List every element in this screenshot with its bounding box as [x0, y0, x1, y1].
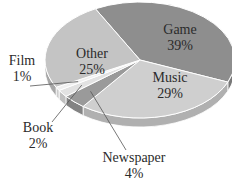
label-music-name: Music	[140, 70, 200, 86]
label-music-value: 29%	[140, 86, 200, 102]
label-newspaper: Newspaper 4%	[94, 150, 174, 182]
label-game-name: Game	[150, 22, 210, 38]
label-film: Film 1%	[4, 53, 40, 85]
label-other-name: Other	[62, 46, 122, 62]
pie-chart: Game 39% Music 29% Other 25% Film 1% Boo…	[0, 0, 232, 189]
label-film-value: 1%	[4, 69, 40, 85]
label-newspaper-value: 4%	[94, 166, 174, 182]
label-game: Game 39%	[150, 22, 210, 54]
label-music: Music 29%	[140, 70, 200, 102]
label-other: Other 25%	[62, 46, 122, 78]
label-book-name: Book	[18, 120, 58, 136]
label-book-value: 2%	[18, 136, 58, 152]
label-film-name: Film	[4, 53, 40, 69]
label-book: Book 2%	[18, 120, 58, 152]
label-other-value: 25%	[62, 62, 122, 78]
label-game-value: 39%	[150, 38, 210, 54]
label-newspaper-name: Newspaper	[94, 150, 174, 166]
